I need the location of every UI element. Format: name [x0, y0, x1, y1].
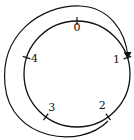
point-label-0: 0	[74, 21, 81, 34]
cycle-diagram: 01234	[0, 0, 134, 140]
main-circle	[24, 21, 130, 127]
point-tick-3	[43, 114, 48, 120]
point-label-2: 2	[99, 99, 106, 112]
point-label-4: 4	[31, 52, 38, 65]
point-label-3: 3	[48, 101, 55, 114]
outer-arrow-arc	[5, 6, 128, 137]
point-label-1: 1	[113, 53, 120, 66]
point-tick-2	[106, 114, 111, 120]
